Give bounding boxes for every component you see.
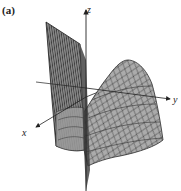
- z-axis-label: z: [87, 4, 91, 15]
- right-hump-surface: [84, 60, 163, 166]
- surface-plot-canvas: [0, 0, 181, 191]
- surface-plot-figure: (a) z x y: [0, 0, 181, 191]
- x-axis-label: x: [22, 127, 26, 138]
- y-axis-label: y: [173, 94, 177, 105]
- panel-label: (a): [2, 4, 15, 16]
